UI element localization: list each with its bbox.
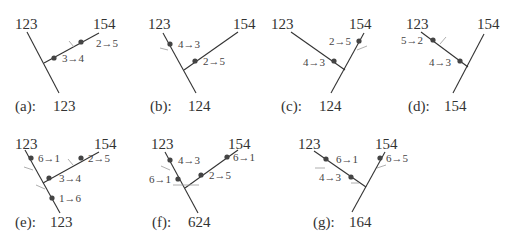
caption-tag: (b):: [150, 98, 172, 115]
mutation-dot: [192, 58, 197, 63]
mutation-label: 4→3: [429, 56, 452, 68]
leaf-left-label: 123: [148, 16, 171, 32]
leaf-left-label: 123: [15, 136, 38, 152]
tick-mark: [68, 159, 73, 165]
mutation-dot: [167, 41, 172, 46]
mutation-dot: [430, 37, 435, 42]
mutation-dot: [377, 155, 382, 160]
leaf-right-label: 154: [228, 136, 251, 152]
mutation-dot: [356, 38, 361, 43]
mutation-label: 6→1: [149, 173, 171, 185]
leaf-right-label: 154: [93, 16, 116, 32]
mutation-dot: [457, 58, 462, 63]
caption-tag: (a):: [15, 98, 36, 115]
caption-value: 154: [444, 98, 467, 114]
tick-mark: [440, 37, 446, 44]
caption-tag: (e):: [15, 214, 36, 231]
leaf-right-label: 154: [477, 16, 500, 32]
mutation-dot: [198, 172, 203, 177]
main-branch: [27, 32, 59, 93]
caption-tag: (g):: [313, 214, 335, 231]
mutation-dot: [167, 157, 172, 162]
leaf-left-label: 123: [298, 136, 321, 152]
caption-value: 124: [188, 98, 211, 114]
mutation-label: 6→5: [386, 152, 409, 164]
mutation-dot: [175, 176, 180, 181]
leaf-left-label: 123: [15, 16, 38, 32]
mutation-label: 3→4: [62, 52, 85, 64]
mutation-label: 4→3: [319, 171, 342, 183]
mutation-dot: [46, 175, 51, 180]
caption-tag: (f):: [152, 214, 171, 231]
tick-mark: [357, 46, 367, 50]
leaf-left-label: 123: [151, 136, 174, 152]
leaf-right-label: 154: [375, 136, 398, 152]
mutation-label: 2→5: [209, 169, 232, 181]
tick-mark: [36, 185, 45, 189]
panel-b: 123 154 4→3 2→5 (b): 124: [148, 16, 256, 115]
caption-value: 164: [349, 214, 372, 230]
mutation-label: 2→5: [96, 37, 119, 49]
tick-mark: [377, 165, 386, 168]
panel-d: 123 154 5→2 4→3 (d): 154: [401, 16, 500, 115]
leaf-right-label: 154: [349, 16, 372, 32]
caption-tag: (d):: [408, 98, 430, 115]
mutation-dot: [348, 174, 353, 179]
leaf-left-label: 123: [271, 16, 294, 32]
caption-value: 124: [319, 98, 342, 114]
mutation-label: 6→1: [233, 151, 255, 163]
mutation-dot: [224, 154, 229, 159]
mutation-dot: [28, 155, 33, 160]
panel-e: 123 154 6→1 2→5 3→4 1→6 (e): 123: [15, 136, 117, 231]
leaf-left-label: 123: [406, 16, 429, 32]
caption-value: 123: [50, 214, 73, 230]
panel-c: 123 154 4→3 2→5 (c): 124: [271, 16, 372, 115]
main-branch: [453, 34, 484, 93]
mutation-label: 5→2: [401, 34, 423, 46]
tick-mark: [161, 166, 170, 170]
mutation-label: 2→5: [203, 55, 226, 67]
tick-mark: [160, 48, 168, 50]
caption-value: 123: [53, 98, 76, 114]
mutation-label: 4→3: [178, 154, 201, 166]
panel-g: 123 154 6→1 4→3 6→5 (g): 164: [298, 136, 409, 231]
mutation-label: 6→1: [38, 152, 60, 164]
caption-value: 624: [188, 214, 211, 230]
mutation-label: 2→5: [88, 152, 111, 164]
mutation-label: 4→3: [178, 38, 201, 50]
mutation-label: 3→4: [59, 172, 82, 184]
mutation-dot: [51, 55, 56, 60]
mutation-dot: [78, 155, 83, 160]
tick-mark: [24, 167, 33, 170]
mutation-dot: [323, 156, 328, 161]
mutation-dot: [49, 195, 54, 200]
leaf-right-label: 154: [94, 136, 117, 152]
panel-a: 123 154 3→4 2→5 (a): 123: [15, 16, 119, 115]
mutation-label: 4→3: [303, 56, 326, 68]
mutation-dot: [331, 58, 336, 63]
panel-f: 123 154 4→3 6→1 6→1 2→5 (f): 624: [149, 136, 255, 231]
mutation-label: 6→1: [336, 153, 358, 165]
caption-tag: (c):: [281, 98, 302, 115]
leaf-right-label: 154: [233, 16, 256, 32]
mutation-label: 2→5: [329, 35, 352, 47]
mutation-label: 1→6: [59, 192, 82, 204]
tick-mark: [69, 41, 74, 47]
mutation-dot: [78, 39, 83, 44]
